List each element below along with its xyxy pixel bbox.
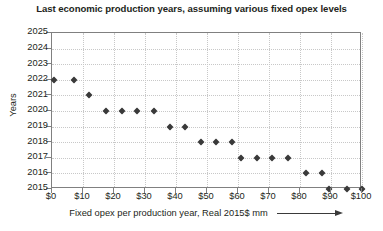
data-point	[134, 107, 141, 114]
gridline-vertical	[269, 33, 270, 187]
data-point	[151, 107, 158, 114]
y-axis-tick-label: 2023	[20, 59, 48, 68]
data-point	[182, 123, 189, 130]
y-axis-tick-label: 2016	[20, 168, 48, 177]
gridline-horizontal	[52, 111, 360, 112]
gridline-vertical	[238, 33, 239, 187]
x-axis-tick-label: $100	[341, 191, 381, 201]
gridline-horizontal	[52, 173, 360, 174]
data-point	[303, 170, 310, 177]
gridline-horizontal	[52, 127, 360, 128]
y-axis-tick-label: 2019	[20, 121, 48, 130]
gridline-horizontal	[52, 95, 360, 96]
data-point	[166, 123, 173, 130]
gridline-horizontal	[52, 142, 360, 143]
data-point	[118, 107, 125, 114]
gridline-vertical	[362, 33, 363, 187]
gridline-vertical	[83, 33, 84, 187]
x-axis-title: Fixed opex per production year, Real 201…	[69, 208, 267, 218]
y-axis-tick-label: 2015	[20, 183, 48, 192]
y-axis-tick-label: 2020	[20, 105, 48, 114]
y-axis-tick-label: 2024	[20, 43, 48, 52]
arrow-right-icon	[277, 209, 343, 217]
gridline-vertical	[331, 33, 332, 187]
gridline-horizontal	[52, 158, 360, 159]
data-point	[318, 170, 325, 177]
data-point	[213, 139, 220, 146]
plot-area	[51, 32, 361, 188]
gridline-vertical	[207, 33, 208, 187]
data-point	[228, 139, 235, 146]
chart-container: Last economic production years, assuming…	[0, 0, 383, 231]
data-point	[103, 107, 110, 114]
gridline-horizontal	[52, 80, 360, 81]
data-point	[253, 154, 260, 161]
chart-title: Last economic production years, assuming…	[0, 3, 383, 14]
x-axis-title-row: Fixed opex per production year, Real 201…	[51, 208, 361, 218]
y-axis-tick-label: 2025	[20, 27, 48, 36]
y-axis-tick-label: 2018	[20, 137, 48, 146]
y-axis-tick-label: 2017	[20, 152, 48, 161]
y-axis-title: Years	[8, 80, 18, 130]
gridline-horizontal	[52, 64, 360, 65]
gridline-vertical	[300, 33, 301, 187]
data-point	[70, 76, 77, 83]
data-point	[197, 139, 204, 146]
gridline-vertical	[114, 33, 115, 187]
gridline-horizontal	[52, 49, 360, 50]
gridline-vertical	[145, 33, 146, 187]
y-axis-tick-label: 2021	[20, 90, 48, 99]
data-point	[86, 92, 93, 99]
data-point	[284, 154, 291, 161]
y-axis-tick-label: 2022	[20, 74, 48, 83]
gridline-vertical	[176, 33, 177, 187]
data-point	[50, 76, 57, 83]
